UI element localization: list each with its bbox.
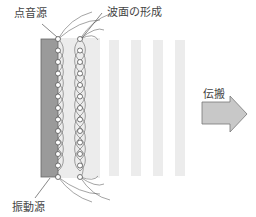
label-vibration-source: 振動源 xyxy=(12,198,45,214)
wavefront-stripe xyxy=(175,40,185,176)
leader-wavefront xyxy=(82,13,102,38)
propagation-arrow xyxy=(202,96,247,132)
leader-vibration-source xyxy=(35,178,50,198)
wavefront-stripes xyxy=(109,40,185,176)
wavefront-stripe xyxy=(109,40,119,176)
wave-diagram xyxy=(0,0,256,217)
label-point-source: 点音源 xyxy=(14,4,47,20)
leader-point-source xyxy=(42,24,57,37)
wavefront-stripe xyxy=(131,40,141,176)
label-wavefront: 波面の形成 xyxy=(107,3,162,19)
label-propagation: 伝搬 xyxy=(203,85,225,101)
wavefront-stripe xyxy=(153,40,163,176)
